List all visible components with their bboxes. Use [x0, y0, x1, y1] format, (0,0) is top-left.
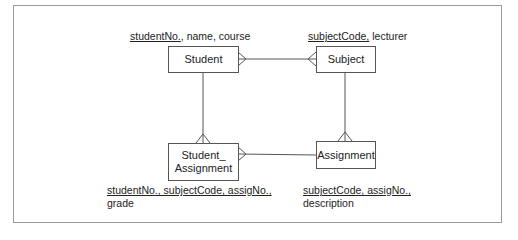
student-other-attributes: , name, course	[181, 30, 250, 42]
entity-student[interactable]: Student	[168, 46, 239, 73]
subject-attributes: subjectCode, lecturer	[308, 30, 407, 43]
entity-student-assignment[interactable]: Student_ Assignment	[168, 143, 239, 181]
student-assignment-key-attributes: studentNo., subjectCode, assigNo.,	[107, 184, 272, 197]
entity-subject[interactable]: Subject	[316, 46, 376, 73]
assignment-key-attributes: subjectCode, assigNo.,	[303, 184, 411, 197]
entity-label: Assignment	[317, 149, 374, 162]
student-attributes: studentNo., name, course	[130, 30, 250, 43]
entity-label: Student	[185, 53, 223, 66]
student-key-attribute: studentNo.	[130, 30, 181, 42]
student-assignment-other-attributes: grade	[107, 197, 272, 210]
subject-key-attribute: subjectCode,	[308, 30, 369, 42]
entity-label-line2: Assignment	[175, 162, 232, 175]
assignment-attributes: subjectCode, assigNo., description	[303, 184, 411, 210]
student-assignment-attributes: studentNo., subjectCode, assigNo., grade	[107, 184, 272, 210]
subject-other-attributes: lecturer	[369, 30, 407, 42]
entity-label-line1: Student_	[181, 149, 225, 162]
entity-label: Subject	[328, 53, 365, 66]
entity-assignment[interactable]: Assignment	[316, 141, 376, 169]
assignment-other-attributes: description	[303, 197, 411, 210]
